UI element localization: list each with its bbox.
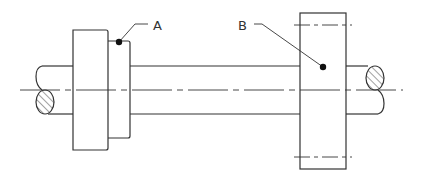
leader-b	[254, 24, 326, 70]
leader-a	[116, 24, 148, 45]
leader-a-dot	[116, 39, 122, 45]
gear-b	[300, 13, 346, 169]
leader-b-dot	[320, 64, 326, 70]
right-section-hatch	[366, 66, 384, 90]
mechanical-drawing	[0, 0, 423, 180]
label-a: A	[153, 19, 162, 32]
label-b: B	[238, 19, 247, 32]
left-section-hatch	[36, 90, 54, 114]
